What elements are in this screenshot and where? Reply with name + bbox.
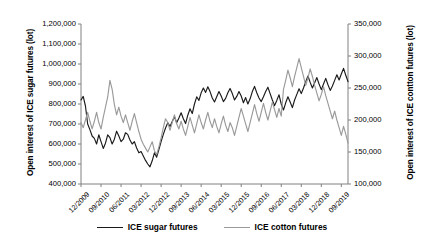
y-axis-right-tick-label: 300,000 <box>354 51 414 60</box>
y-axis-left-tick-label: 400,000 <box>8 179 76 188</box>
y-axis-left-tick-label: 1,200,000 <box>8 19 76 28</box>
y-axis-left-tick-label: 500,000 <box>8 159 76 168</box>
series-lines <box>81 59 348 167</box>
y-axis-right-tick-label: 350,000 <box>354 19 414 28</box>
legend-label: ICE cotton futures <box>255 222 328 232</box>
legend-entry: ICE cotton futures <box>224 222 328 232</box>
y-axis-right-tick-label: 150,000 <box>354 147 414 156</box>
y-axis-left-tick-label: 700,000 <box>8 119 76 128</box>
y-axis-right-tick-label: 200,000 <box>354 115 414 124</box>
y-axis-left-tick-label: 1,000,000 <box>8 59 76 68</box>
y-axis-left-tick-label: 600,000 <box>8 139 76 148</box>
y-axis-right-tick-label: 250,000 <box>354 83 414 92</box>
legend-swatch-icon <box>97 227 123 228</box>
y-axis-right-tick-label: 100,000 <box>354 179 414 188</box>
y-axis-left-tick-label: 900,000 <box>8 79 76 88</box>
legend-swatch-icon <box>224 227 250 228</box>
chart-figure: Open interest of ICE sugar futures (lot)… <box>0 0 424 246</box>
legend-label: ICE sugar futures <box>128 222 198 232</box>
legend-entry: ICE sugar futures <box>97 222 198 232</box>
axes-lines <box>78 24 351 187</box>
y-axis-left-tick-label: 1,100,000 <box>8 39 76 48</box>
y-axis-left-tick-label: 800,000 <box>8 99 76 108</box>
chart-legend: ICE sugar futuresICE cotton futures <box>0 222 424 232</box>
y-axis-right-title: Open interest of ICE contton futures (lo… <box>406 18 415 188</box>
